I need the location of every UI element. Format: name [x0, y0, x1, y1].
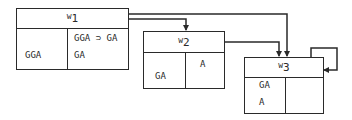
diagram-canvas: w1 GGA GGA ⊃ GA GA w2 GA A w3 GA A [0, 0, 352, 120]
world-w1-left-cell: GGA [17, 28, 68, 69]
world-label-prefix: w [67, 12, 72, 21]
world-w3-left-cell: GA A [245, 77, 286, 113]
world-w3-right-cell [286, 77, 323, 113]
world-label-index: 3 [283, 61, 290, 74]
edge-w1-w2 [128, 19, 186, 30]
world-label-index: 2 [183, 36, 190, 49]
world-w3-header: w3 [245, 58, 323, 78]
formula: GGA ⊃ GA [74, 33, 117, 44]
world-label-index: 1 [72, 12, 79, 25]
world-label-prefix: w [178, 36, 183, 45]
world-w1-header: w1 [17, 9, 128, 29]
world-w3: w3 GA A [244, 57, 324, 114]
world-label-prefix: w [278, 61, 283, 70]
formula: A [259, 97, 264, 108]
world-w1-right-cell: GGA ⊃ GA GA [68, 28, 128, 69]
edge-w2-w3 [224, 42, 279, 56]
formula: GA [74, 50, 85, 61]
world-w2-left-cell: GA [144, 52, 186, 88]
formula: GA [155, 71, 166, 82]
world-w1: w1 GGA GGA ⊃ GA GA [16, 8, 129, 70]
world-w2-right-cell: A [186, 52, 224, 88]
formula: GA [259, 80, 270, 91]
formula: A [200, 59, 205, 70]
world-w2-header: w2 [144, 32, 224, 53]
formula: GGA [25, 50, 41, 61]
world-w2: w2 GA A [143, 31, 225, 89]
